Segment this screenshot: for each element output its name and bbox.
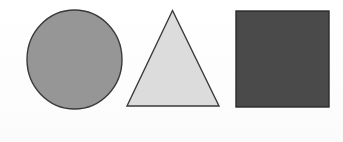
circle-shape bbox=[27, 10, 122, 109]
rectangle-shape bbox=[236, 11, 329, 107]
shapes-figure bbox=[0, 0, 343, 142]
shape-canvas bbox=[0, 0, 343, 142]
triangle-shape bbox=[127, 11, 219, 107]
